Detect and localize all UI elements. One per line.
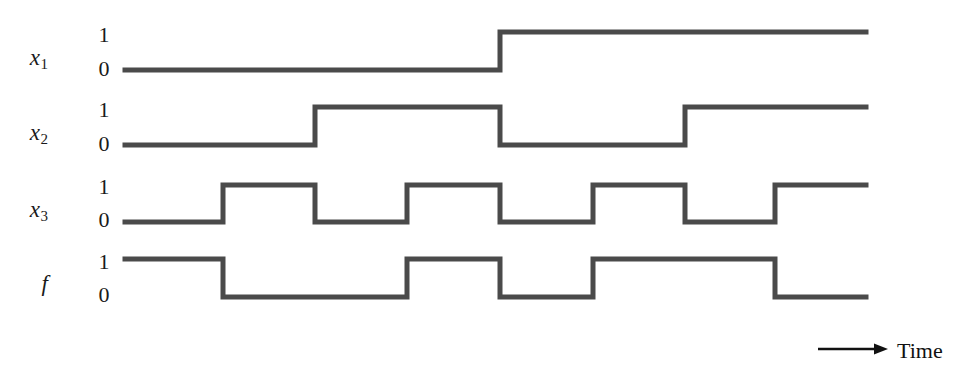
waveform-canvas	[0, 0, 959, 376]
waveform-trace-x3	[125, 185, 866, 222]
time-axis-label: Time	[897, 340, 943, 362]
waveform-trace-x2	[125, 107, 866, 145]
timing-diagram-figure: x110x210x310f10 Time	[0, 0, 959, 376]
arrow-right-icon	[874, 344, 888, 355]
waveform-group	[125, 32, 866, 297]
waveform-trace-x1	[125, 32, 866, 70]
waveform-trace-f	[125, 259, 866, 297]
time-axis-arrow	[818, 344, 888, 355]
